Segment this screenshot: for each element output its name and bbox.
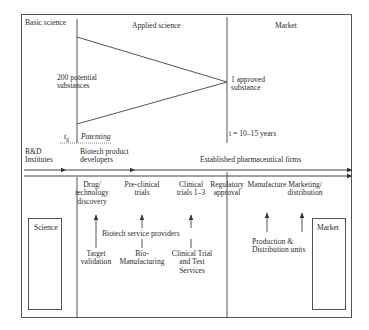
patenting-label: Patenting <box>81 133 111 141</box>
production-units-line2: Distribution units <box>252 246 305 254</box>
t0-subscript: 0 <box>66 137 69 143</box>
stage-line: approval <box>202 189 252 197</box>
diagram-lines <box>0 0 369 330</box>
funnel-bottom-edge <box>77 82 227 124</box>
service-providers-title: Biotech service providers <box>102 230 180 238</box>
region-market: Market <box>275 22 297 30</box>
stage-marketing-distribution: Marketing/ distribution <box>280 181 330 198</box>
actor-arrow-mid-1 <box>61 168 66 172</box>
service-line: Services <box>166 267 218 275</box>
funnel-end-label-line2: substance <box>231 84 261 92</box>
funnel-top-edge <box>77 37 227 82</box>
market-box-label: Market <box>317 224 339 232</box>
service-bio-manufacturing: Bio- Manufacturing <box>114 250 170 267</box>
t0-label: t0 <box>64 133 69 144</box>
duration-label: t = 10–15 years <box>229 130 276 138</box>
service-target-validation: Target validation <box>76 250 116 267</box>
actor-biotech-developers-line2: developers <box>80 156 113 164</box>
science-box-label: Science <box>34 224 58 232</box>
region-basic-science: Basic science <box>25 19 66 27</box>
service-line: Manufacturing <box>114 258 170 266</box>
service-clinical-trial-services: Clinical Trial and Test Services <box>166 250 218 275</box>
stage-line: discovery <box>62 198 122 206</box>
actor-rd-institutes-line2: Institutes <box>25 156 53 164</box>
service-line: validation <box>76 258 116 266</box>
actor-arrow-mid-2 <box>130 168 135 172</box>
stage-line: distribution <box>280 189 330 197</box>
region-applied-science: Applied science <box>132 22 181 30</box>
actor-pharma-firms: Established pharmaceutical firms <box>200 156 301 164</box>
funnel-start-label-line2: substances <box>57 82 89 90</box>
